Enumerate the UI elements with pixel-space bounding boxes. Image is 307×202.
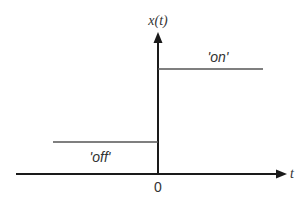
on-label: 'on'	[208, 49, 230, 65]
amplitude-axis-arrow-icon	[154, 32, 163, 43]
x-axis-label: t	[290, 166, 295, 181]
time-axis-arrow-icon	[276, 170, 287, 179]
step-function-diagram: x(t) t 0 'off' 'on'	[0, 0, 307, 202]
origin-label: 0	[154, 179, 162, 195]
y-axis-label: x(t)	[147, 13, 168, 29]
off-label: 'off'	[90, 149, 112, 165]
